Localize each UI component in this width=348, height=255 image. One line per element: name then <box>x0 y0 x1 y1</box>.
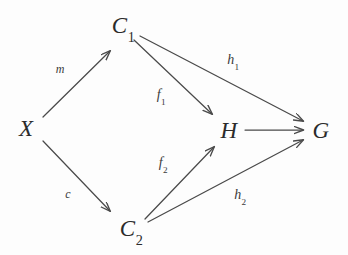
edge-label-f1: f1 <box>157 88 166 105</box>
diagram-arrows-layer <box>0 0 348 255</box>
arrow-x-to-c1 <box>43 51 110 117</box>
edge-label-f2: f2 <box>159 156 168 173</box>
arrow-c2-to-g <box>148 140 303 222</box>
commutative-diagram: X C1 C2 H G m c f1 h1 f2 h2 <box>0 0 348 255</box>
arrow-x-to-c2 <box>43 141 110 211</box>
edge-label-h2: h2 <box>234 188 246 205</box>
node-g: G <box>313 119 330 142</box>
arrow-c1-to-g <box>140 36 303 121</box>
edge-label-c: c <box>65 188 70 200</box>
node-c1: C1 <box>112 14 135 41</box>
arrow-c1-to-h <box>134 40 212 114</box>
edge-label-m: m <box>56 63 65 75</box>
node-x: X <box>19 117 33 140</box>
arrow-c2-to-h <box>145 147 214 219</box>
edge-label-h1: h1 <box>227 53 239 70</box>
node-c2: C2 <box>120 217 143 244</box>
node-h: H <box>221 119 238 142</box>
